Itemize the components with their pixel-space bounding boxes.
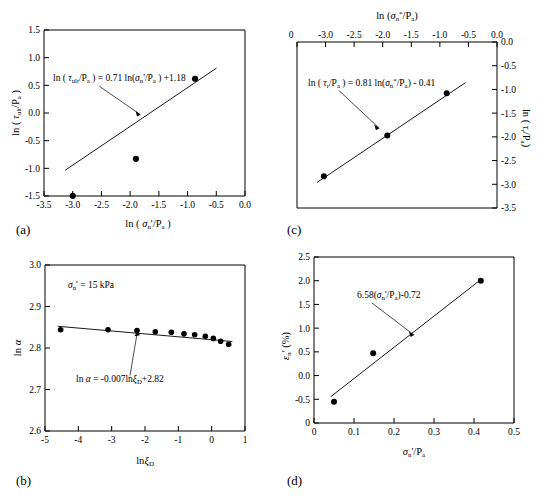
panel-b-equation: ln α = -0.007lnξD+2.82 (76, 374, 164, 385)
y-tick-label: -1.5 (501, 109, 516, 119)
panel-a-leader (99, 86, 140, 115)
panel-c-plot: 0 -3.0 -2.5 -2.0 -1.5 -1.0 -0.5 0.0 -3.5 (269, 0, 539, 251)
y-tick-label: -1.0 (25, 164, 40, 174)
panel-a: -3.5 -3.0 -2.5 -2.0 -1.5 -1.0 -0.5 0.0 -… (0, 0, 270, 251)
panel-a-label: (a) (16, 222, 30, 238)
y-tick-label: 2.5 (298, 252, 310, 262)
panel-b-plot: -5 -4 -3 -2 -1 0 1 2.6 2.7 2.8 2.9 3.0 (0, 251, 270, 502)
x-tick-label: -1.5 (404, 30, 419, 40)
x-tick-label: -4 (74, 435, 82, 445)
x-tick-label: -0.5 (209, 200, 224, 210)
panel-d-leader (372, 303, 414, 335)
panel-c-x-axis-title: ln (σn*/Pa) (376, 10, 418, 22)
panel-a-plot: -3.5 -3.0 -2.5 -2.0 -1.5 -1.0 -0.5 0.0 -… (0, 0, 270, 251)
y-tick-label: 1.0 (28, 53, 40, 63)
y-tick-label: 0 (305, 418, 310, 428)
data-point (58, 327, 64, 333)
data-point (478, 278, 484, 284)
y-tick-label: 0.5 (28, 81, 40, 91)
y-tick-label: 1.5 (28, 25, 40, 35)
x-tick-label: -2.0 (123, 200, 138, 210)
y-tick-label: 3.0 (29, 260, 41, 270)
data-point (226, 341, 232, 347)
x-tick-label: -2 (141, 435, 149, 445)
x-tick-label: 1 (243, 435, 248, 445)
x-tick-label: -3.0 (65, 200, 80, 210)
panel-c-label: (c) (287, 222, 301, 238)
x-tick-label: -1.0 (432, 30, 447, 40)
x-tick-label: 0 (209, 435, 214, 445)
x-tick-label: -1 (174, 435, 182, 445)
figure-container: -3.5 -3.0 -2.5 -2.0 -1.5 -1.0 -0.5 0.0 -… (0, 0, 539, 502)
x-tick-label: -1.0 (180, 200, 195, 210)
y-tick-label: 2.6 (29, 426, 41, 436)
panel-c-equation: ln ( τr/Pa ) = 0.81 ln(σn*/Pa) - 0.41 (308, 77, 436, 89)
y-tick-label: 0.0 (298, 371, 310, 381)
panel-a-y-axis-title: ln ( τult/Pa ) (10, 90, 22, 136)
x-tick-label: -5 (41, 435, 49, 445)
panel-d-plot: 0 0.1 0.2 0.3 0.4 0.5 0 -0.5 0.0 0.5 (269, 251, 539, 502)
panel-a-x-ticks: -3.5 -3.0 -2.5 -2.0 -1.5 -1.0 -0.5 0.0 (36, 191, 251, 210)
panel-a-equation: ln ( τult/Pa ) = 0.71 ln(σn'/Pa ) +1.18 (53, 73, 186, 84)
y-tick-label: 2.9 (29, 302, 41, 312)
y-tick-label: -1.0 (501, 85, 516, 95)
data-point (105, 327, 111, 333)
panel-b-leader (130, 331, 138, 376)
panel-b-x-axis-title: lnξD (136, 455, 154, 467)
panel-d-x-axis-title: σn'/Pa (403, 446, 425, 458)
x-tick-label: -0.5 (461, 30, 476, 40)
panel-a-leader-arrow (136, 111, 141, 117)
x-tick-label: -1.5 (151, 200, 166, 210)
y-tick-label: -3.5 (501, 203, 516, 213)
panel-d-axes (314, 257, 514, 423)
y-tick-label: 0.5 (298, 347, 310, 357)
panel-d-equation: 6.58(σn'/Pa)-0.72 (357, 290, 421, 301)
y-tick-label: -3.0 (501, 180, 516, 190)
data-point (192, 76, 198, 82)
y-tick-label: -1.5 (25, 191, 40, 201)
panel-c: 0 -3.0 -2.5 -2.0 -1.5 -1.0 -0.5 0.0 -3.5 (269, 0, 539, 251)
panel-a-axes (44, 30, 245, 196)
y-tick-label: 1.0 (298, 324, 310, 334)
y-tick-label: -2.0 (501, 132, 516, 142)
data-point (203, 334, 209, 340)
data-point (331, 399, 337, 405)
data-point (384, 132, 390, 138)
panel-b-label: (b) (16, 473, 31, 489)
panel-b-x-ticks: -5 -4 -3 -2 -1 0 1 (41, 426, 248, 445)
x-tick-label: 0.2 (388, 427, 400, 437)
x-tick-label: 0.4 (468, 427, 480, 437)
x-tick-label: 0 (312, 427, 317, 437)
panel-c-y-axis-title: ln ( τr/Pa) (520, 109, 532, 148)
panel-c-fit-line (317, 83, 466, 183)
panel-a-x-axis-title: ln ( σn'/Pa ) (125, 218, 171, 230)
x-origin-label: 0 (289, 30, 294, 40)
y-tick-label: -2.5 (501, 156, 516, 166)
y-tick-label: 2.8 (29, 343, 41, 353)
x-tick-label: 0.0 (239, 200, 251, 210)
panel-c-leader (339, 91, 379, 129)
panel-b-y-axis-title: ln α (12, 339, 23, 356)
panel-d-x-ticks: 0 0.1 0.2 0.3 0.4 0.5 (312, 418, 521, 437)
y-tick-label: -0.5 (501, 61, 516, 71)
x-tick-label: -2.5 (94, 200, 109, 210)
panel-d-y-axis-title: εn' (%) (280, 332, 292, 360)
panel-c-data-points (321, 90, 450, 179)
x-tick-label: -3 (108, 435, 116, 445)
panel-c-y-ticks: -3.5 -3.0 -2.5 -2.0 -1.5 -1.0 -0.5 0.0 (492, 37, 516, 213)
panel-a-data-points (70, 76, 199, 199)
panel-b-data-points (58, 327, 232, 347)
y-tick-label: -0.5 (295, 395, 310, 405)
data-point (211, 336, 217, 342)
data-point (218, 339, 224, 345)
x-tick-label: -2.0 (375, 30, 390, 40)
panel-b-note: σn' = 15 kPa (68, 280, 115, 291)
x-tick-label: 0.3 (428, 427, 440, 437)
data-point (70, 193, 76, 199)
data-point (169, 329, 175, 335)
data-point (133, 156, 139, 162)
panel-d-label: (d) (287, 473, 302, 489)
panel-c-axes (297, 42, 497, 208)
panel-b: -5 -4 -3 -2 -1 0 1 2.6 2.7 2.8 2.9 3.0 (0, 251, 270, 502)
y-tick-label: -0.5 (25, 136, 40, 146)
